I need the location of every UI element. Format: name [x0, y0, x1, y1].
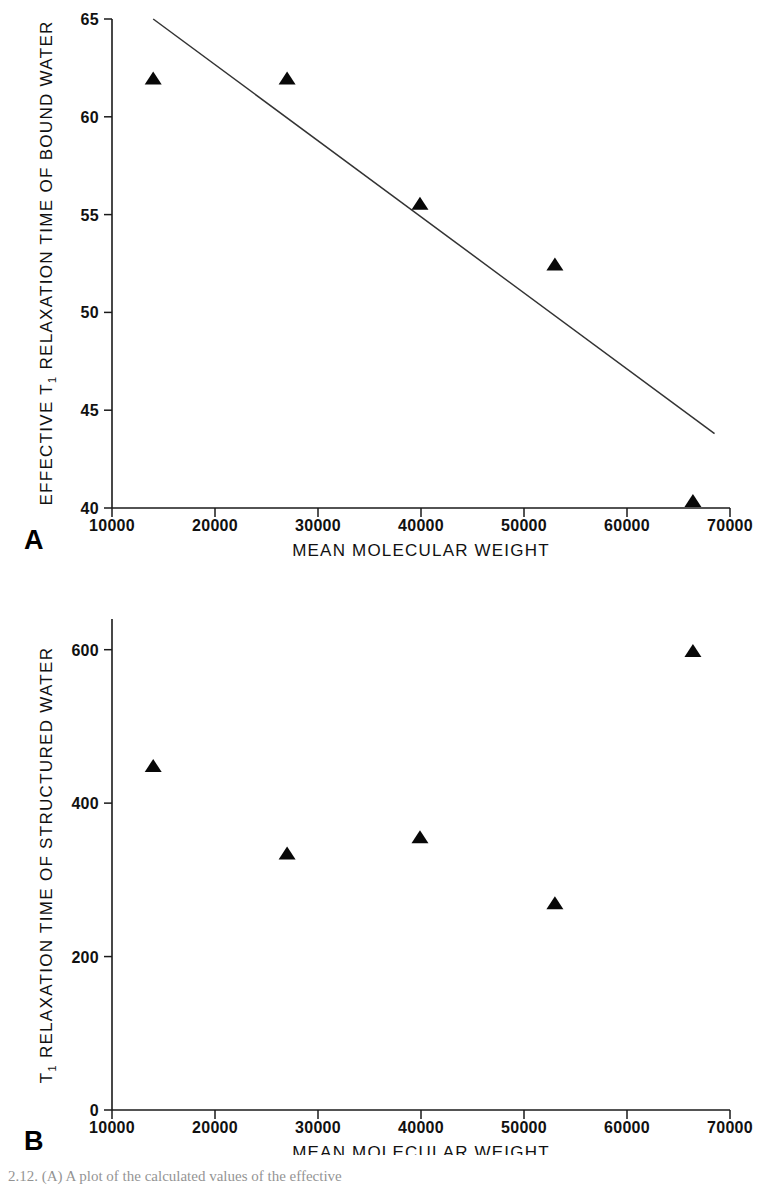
x-axis-title: MEAN MOLECULAR WEIGHT	[292, 541, 550, 560]
scatter-plot-a: 4045505560651000020000300004000050000600…	[0, 0, 768, 575]
panel-label-b: B	[24, 1128, 44, 1155]
data-point-marker	[145, 759, 162, 772]
data-point-marker	[684, 644, 701, 657]
y-axis-title: EFFECTIVE T1 RELAXATION TIME OF BOUND WA…	[37, 20, 58, 505]
y-tick-label: 45	[81, 402, 99, 419]
y-tick-label: 50	[81, 304, 99, 321]
y-tick-label: 600	[71, 642, 99, 659]
x-tick-label: 30000	[295, 517, 341, 534]
y-tick-label: 55	[81, 207, 99, 224]
x-axis-title: MEAN MOLECULAR WEIGHT	[292, 1143, 550, 1155]
x-tick-label: 10000	[89, 517, 135, 534]
figure-caption: 2.12. (A) A plot of the calculated value…	[0, 1168, 768, 1185]
y-tick-label: 40	[81, 500, 99, 517]
scatter-plot-b: 0200400600100002000030000400005000060000…	[0, 575, 768, 1155]
data-point-marker	[279, 846, 296, 859]
figure-container: 4045505560651000020000300004000050000600…	[0, 0, 768, 1185]
y-tick-label: 400	[71, 795, 99, 812]
chart-panel-b: 0200400600100002000030000400005000060000…	[0, 575, 768, 1155]
x-tick-label: 10000	[89, 1119, 135, 1136]
panel-label-a: A	[24, 527, 44, 554]
x-tick-label: 70000	[707, 1119, 753, 1136]
x-tick-label: 60000	[604, 517, 650, 534]
y-tick-label: 200	[71, 949, 99, 966]
data-point-marker	[279, 72, 296, 85]
chart-panel-a: 4045505560651000020000300004000050000600…	[0, 0, 768, 575]
y-axis-title: T1 RELAXATION TIME OF STRUCTURED WATER	[37, 647, 58, 1083]
x-tick-label: 50000	[501, 517, 547, 534]
x-tick-label: 70000	[707, 517, 753, 534]
x-tick-label: 40000	[398, 517, 444, 534]
data-point-marker	[546, 257, 563, 270]
data-point-marker	[411, 830, 428, 843]
x-tick-label: 20000	[192, 1119, 238, 1136]
x-tick-label: 60000	[604, 1119, 650, 1136]
data-point-marker	[684, 494, 701, 507]
x-tick-label: 40000	[398, 1119, 444, 1136]
data-point-marker	[546, 896, 563, 909]
x-tick-label: 20000	[192, 517, 238, 534]
x-tick-label: 50000	[501, 1119, 547, 1136]
y-tick-label: 0	[90, 1102, 99, 1119]
y-tick-label: 65	[81, 11, 99, 28]
data-point-marker	[411, 197, 428, 210]
regression-line	[153, 19, 714, 434]
x-tick-label: 30000	[295, 1119, 341, 1136]
y-tick-label: 60	[81, 109, 99, 126]
data-point-marker	[145, 72, 162, 85]
